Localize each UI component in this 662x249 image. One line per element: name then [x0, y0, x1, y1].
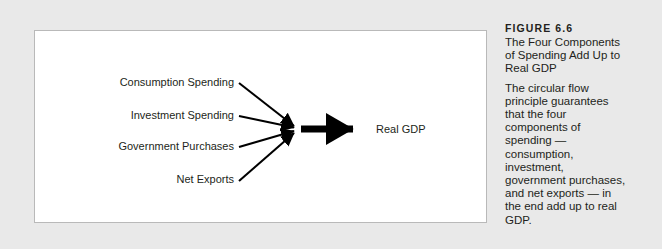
figure-description-line: investment,	[505, 161, 633, 174]
diagram-plate: Consumption Spending Investment Spending…	[34, 30, 487, 223]
figure-caption: FIGURE 6.6 The Four Components of Spendi…	[505, 22, 633, 227]
figure-number: FIGURE 6.6	[505, 22, 633, 35]
label-government-purchases: Government Purchases	[118, 140, 234, 152]
figure-title: The Four Components of Spending Add Up t…	[505, 36, 633, 76]
figure-title-line: The Four Components	[505, 36, 633, 49]
figure-description-line: government purchases,	[505, 174, 633, 187]
figure-title-line: of Spending Add Up to	[505, 49, 633, 62]
arrow-investment-spending	[239, 116, 294, 128]
figure-description-line: consumption,	[505, 148, 633, 161]
figure-description-line: that the four	[505, 108, 633, 121]
figure-description-line: GDP.	[505, 214, 633, 227]
figure-title-line: Real GDP	[505, 62, 633, 75]
flow-diagram: Consumption Spending Investment Spending…	[35, 31, 488, 224]
label-net-exports: Net Exports	[177, 173, 235, 185]
label-investment-spending: Investment Spending	[131, 109, 234, 121]
figure-description: The circular flow principle guarantees t…	[505, 82, 633, 227]
figure-description-line: components of	[505, 121, 633, 134]
figure-description-line: spending —	[505, 134, 633, 147]
label-real-gdp: Real GDP	[376, 123, 426, 135]
figure-description-line: The circular flow	[505, 82, 633, 95]
figure-description-line: the end add up to real	[505, 200, 633, 213]
figure-description-line: and net exports — in	[505, 187, 633, 200]
figure-description-line: principle guarantees	[505, 95, 633, 108]
arrow-net-exports	[239, 133, 294, 181]
label-consumption-spending: Consumption Spending	[120, 76, 234, 88]
figure-container: Consumption Spending Investment Spending…	[0, 0, 662, 249]
arrow-consumption-spending	[239, 83, 294, 126]
